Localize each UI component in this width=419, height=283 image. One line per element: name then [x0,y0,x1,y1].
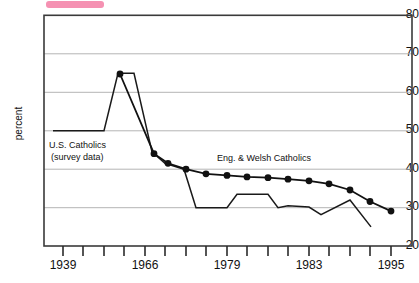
series-us-catholics-line [53,73,371,227]
chart-container: percent 80 70 60 50 40 30 20 1939 1966 1… [0,0,419,283]
x-axis-ticks [63,246,391,256]
chart-plot-svg [0,0,419,283]
